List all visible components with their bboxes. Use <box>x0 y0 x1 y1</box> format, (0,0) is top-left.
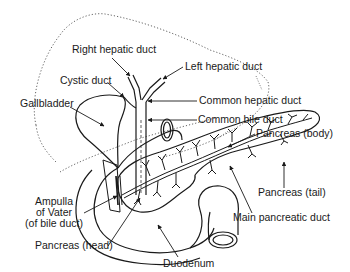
label-common-hepatic-duct: Common hepatic duct <box>199 95 301 106</box>
label-ampulla-line3: (of bile duct) <box>22 218 86 229</box>
label-gallbladder: Gallbladder <box>20 98 74 109</box>
anatomy-diagram: Right hepatic duct Left hepatic duct Cys… <box>0 0 350 272</box>
bile-ducts <box>124 75 165 195</box>
dotted-ticks <box>215 76 262 140</box>
label-main-pancreatic-duct: Main pancreatic duct <box>233 212 330 223</box>
label-pancreas-body: Pancreas (body) <box>256 128 333 139</box>
label-right-hepatic-duct: Right hepatic duct <box>72 44 156 55</box>
pylorus <box>118 119 182 168</box>
label-pancreas-head: Pancreas (head) <box>35 240 113 251</box>
ampulla-region <box>103 160 122 212</box>
label-cystic-duct: Cystic duct <box>60 75 111 86</box>
label-ampulla-of-vater: Ampulla of Vater (of bile duct) <box>22 196 86 229</box>
label-pancreas-tail: Pancreas (tail) <box>258 187 326 198</box>
label-left-hepatic-duct: Left hepatic duct <box>185 61 262 72</box>
label-duodenum: Duodenum <box>163 258 214 269</box>
label-common-bile-duct: Common bile duct <box>198 114 283 125</box>
label-pointers <box>70 58 284 257</box>
gallbladder-shape <box>76 95 125 168</box>
